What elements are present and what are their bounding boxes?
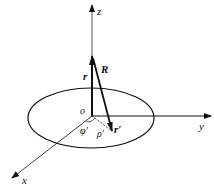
rho-prime-label: ρ′ — [96, 128, 105, 139]
r-label: r — [83, 70, 88, 82]
origin-label: o — [80, 105, 85, 116]
diagram-svg: z y x o r R r′ φ′ ρ′ — [0, 0, 214, 186]
z-label: z — [96, 5, 102, 17]
y-label: y — [198, 120, 204, 132]
phi-prime-label: φ′ — [80, 125, 89, 136]
x-label: x — [21, 174, 27, 186]
R-label: R — [100, 63, 108, 75]
r-prime-label: r′ — [114, 123, 121, 135]
coordinate-diagram: z y x o r R r′ φ′ ρ′ — [0, 0, 214, 186]
